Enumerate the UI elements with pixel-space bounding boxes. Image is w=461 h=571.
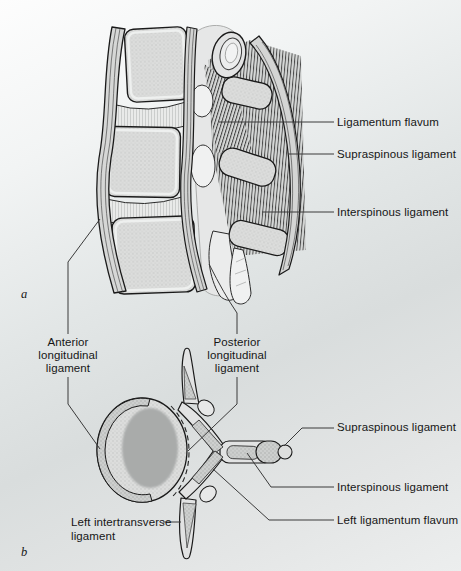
label-posterior-longitudinal: Posterior longitudinal ligament — [189, 336, 285, 375]
ligamentum-flavum-bar-lower — [192, 451, 223, 484]
label-supraspinous-b: Supraspinous ligament — [337, 421, 456, 434]
leader-anterior-upper — [68, 219, 100, 334]
label-anterior-longitudinal: Anterior longitudinal ligament — [20, 336, 116, 375]
interspinous-bar — [227, 445, 259, 459]
label-supraspinous-a: Supraspinous ligament — [337, 148, 456, 161]
leader-supraspinous-b — [284, 428, 334, 446]
vertebral-body-core — [122, 408, 178, 488]
intervertebral-foramen-lower — [191, 145, 215, 187]
label-interspinous-b: Interspinous ligament — [337, 481, 448, 494]
label-interspinous-a: Interspinous ligament — [337, 206, 448, 219]
vertebral-body-2 — [105, 126, 180, 197]
figure-canvas: Ligamentum flavum Supraspinous ligament … — [0, 0, 461, 571]
inferior-articular-process-2 — [230, 248, 251, 304]
supraspinous-knob — [278, 445, 292, 459]
label-ligamentum-flavum-a: Ligamentum flavum — [337, 116, 439, 129]
label-left-intertransverse-b: Left intertransverse ligament — [71, 515, 181, 543]
label-left-ligamentum-flavum-b: Left ligamentum flavum — [337, 514, 458, 527]
vertebral-body-1 — [124, 26, 190, 102]
panel-letter-a: a — [21, 287, 27, 302]
panel-letter-b: b — [21, 545, 27, 560]
leader-anterior-lower — [68, 377, 100, 449]
panel-a-lateral-view — [97, 25, 306, 304]
leader-left-ligamentum-flavum-b — [213, 469, 334, 520]
